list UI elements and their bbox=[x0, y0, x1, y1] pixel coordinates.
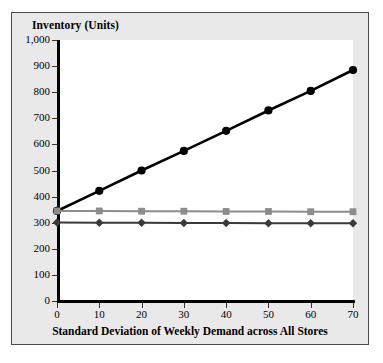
x-tick-label: 0 bbox=[37, 309, 77, 320]
x-tick-mark bbox=[226, 303, 227, 308]
y-tick-label: 600 bbox=[16, 138, 50, 149]
x-tick-mark bbox=[99, 303, 100, 308]
x-tick-label: 10 bbox=[79, 309, 119, 320]
x-tick-label: 60 bbox=[291, 309, 331, 320]
data-point-square bbox=[350, 208, 357, 215]
data-point-circle bbox=[307, 87, 315, 95]
x-tick-mark bbox=[57, 303, 58, 308]
x-axis-title: Standard Deviation of Weekly Demand acro… bbox=[12, 325, 368, 337]
data-point-square bbox=[96, 208, 103, 215]
y-tick-label: 500 bbox=[16, 165, 50, 176]
y-tick-labels: 01002003004005006007008009001,000 bbox=[12, 13, 50, 344]
data-point-square bbox=[54, 208, 61, 215]
x-tick-mark bbox=[353, 303, 354, 308]
data-point-circle bbox=[349, 66, 357, 74]
series-circle bbox=[53, 66, 357, 215]
data-point-diamond bbox=[264, 219, 272, 227]
y-tick-label: 0 bbox=[16, 295, 50, 306]
x-tick-mark bbox=[311, 303, 312, 308]
x-tick-label: 30 bbox=[164, 309, 204, 320]
data-point-square bbox=[180, 208, 187, 215]
data-point-square bbox=[307, 208, 314, 215]
data-point-circle bbox=[137, 166, 145, 174]
series-square bbox=[54, 208, 357, 216]
data-point-diamond bbox=[307, 219, 315, 227]
data-point-circle bbox=[180, 147, 188, 155]
data-point-square bbox=[223, 208, 230, 215]
x-tick-label: 20 bbox=[122, 309, 162, 320]
data-point-diamond bbox=[222, 219, 230, 227]
data-point-circle bbox=[95, 187, 103, 195]
data-point-square bbox=[265, 208, 272, 215]
x-tick-mark bbox=[268, 303, 269, 308]
data-point-diamond bbox=[53, 218, 61, 226]
data-point-diamond bbox=[95, 219, 103, 227]
data-point-circle bbox=[222, 127, 230, 135]
chart-panel: Inventory (Units) 0100200300400500600700… bbox=[11, 12, 369, 345]
x-tick-mark bbox=[142, 303, 143, 308]
data-point-square bbox=[138, 208, 145, 215]
y-tick-label: 800 bbox=[16, 86, 50, 97]
x-tick-label: 70 bbox=[333, 309, 373, 320]
y-tick-label: 1,000 bbox=[16, 34, 50, 45]
series-layer bbox=[57, 40, 355, 302]
y-tick-label: 100 bbox=[16, 269, 50, 280]
chart-screenshot: Inventory (Units) 0100200300400500600700… bbox=[0, 0, 383, 363]
y-tick-label: 300 bbox=[16, 217, 50, 228]
y-tick-label: 900 bbox=[16, 60, 50, 71]
data-point-circle bbox=[264, 106, 272, 114]
data-point-diamond bbox=[180, 219, 188, 227]
data-point-diamond bbox=[349, 219, 357, 227]
y-tick-label: 400 bbox=[16, 191, 50, 202]
y-tick-label: 700 bbox=[16, 112, 50, 123]
y-tick-label: 200 bbox=[16, 243, 50, 254]
series-diamond bbox=[53, 218, 357, 227]
data-point-diamond bbox=[137, 219, 145, 227]
x-tick-label: 40 bbox=[206, 309, 246, 320]
x-tick-label: 50 bbox=[248, 309, 288, 320]
x-tick-mark bbox=[184, 303, 185, 308]
